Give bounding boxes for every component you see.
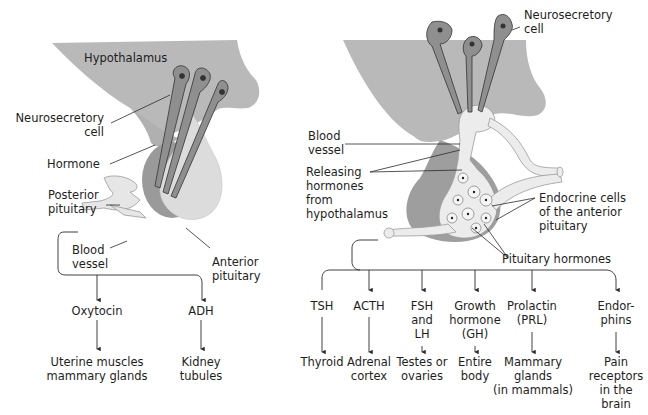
right-target-mammary: Mammary glands (in mammals) — [492, 355, 574, 397]
label-releasing-hormones: Releasing hormones from hypothalamus — [306, 165, 388, 221]
right-hormone-prl: Prolactin (PRL) — [497, 299, 567, 327]
label-hypothalamus: Hypothalamus — [84, 51, 167, 65]
label-hormone: Hormone — [47, 157, 100, 171]
right-hypothalamus — [343, 40, 546, 142]
label-right-blood-vessel: Blood vessel — [308, 129, 344, 157]
right-target-pain-receptors: Pain receptors in the brain — [581, 355, 648, 411]
left-hormone-adh: ADH — [161, 304, 241, 318]
left-target-uterine: Uterine muscles mammary glands — [37, 355, 157, 383]
right-hormone-tsh: TSH — [297, 299, 347, 313]
right-hormone-acth: ACTH — [344, 299, 394, 313]
label-left-blood-vessel: Blood vessel — [72, 243, 108, 271]
right-hormone-endorphins: Endor- phins — [586, 299, 646, 327]
label-posterior-pituitary: Posterior pituitary — [48, 188, 99, 216]
label-left-neurosecretory-cell: Neurosecretory cell — [14, 111, 104, 139]
label-pituitary-hormones: Pituitary hormones — [502, 252, 611, 266]
label-anterior-pituitary: Anterior pituitary — [212, 255, 261, 283]
label-endocrine-cells: Endocrine cells of the anterior pituitar… — [539, 191, 626, 233]
left-hormone-oxytocin: Oxytocin — [57, 304, 137, 318]
left-target-kidney: Kidney tubules — [161, 355, 241, 383]
label-right-neurosecretory-cell: Neurosecretory cell — [524, 8, 613, 36]
